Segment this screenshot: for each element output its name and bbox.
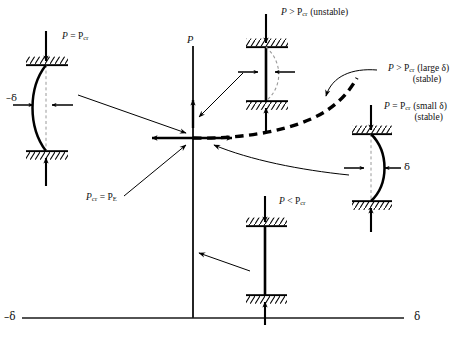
- right-column-deflection-label: δ: [404, 161, 410, 173]
- right-column-figure: [344, 105, 401, 232]
- small-delta-stable-label: P = Pcr (small δ) (stable): [384, 101, 447, 123]
- buckling-bifurcation-diagram: [0, 0, 454, 339]
- axis-group: [22, 46, 404, 318]
- leader-large-delta-to-curve: [326, 70, 377, 96]
- large-delta-line2: (stable): [388, 74, 449, 85]
- leader-left-column-to-origin: [78, 95, 186, 133]
- leader-euler-label-to-origin: [124, 145, 186, 196]
- bottom-column-top-support-hatch: [246, 218, 287, 226]
- left-column-top-support-hatch: [26, 57, 68, 65]
- small-delta-line1: P = Pcr (small δ): [384, 101, 447, 112]
- bottom-column-top-support-line: [246, 225, 287, 227]
- horizontal-axis-right-label: δ: [414, 310, 420, 323]
- bottom-column-load-label: P < Pcr: [279, 196, 306, 207]
- bottom-column-figure: [246, 196, 287, 325]
- bottom-column-bottom-support-line: [246, 294, 287, 296]
- left-column-buckled-shape: [33, 65, 47, 151]
- figure-page: P = Pcr –δ P P > Pcr (unstable) P < Pcr …: [0, 0, 454, 339]
- bottom-column-bottom-support-hatch: [246, 296, 287, 304]
- left-column-deflection-label: –δ: [6, 92, 17, 104]
- bifurcation-point-group: [152, 100, 232, 138]
- horizontal-axis-left-label: –δ: [4, 310, 16, 323]
- large-delta-stable-label: P > Pcr (large δ) (stable): [388, 63, 449, 85]
- leader-line-group: [78, 70, 377, 271]
- top-column-load-label: P > Pcr (unstable): [281, 7, 348, 18]
- top-column-buckled-dashed-shape: [266, 47, 279, 101]
- left-column-top-support-line: [26, 64, 68, 66]
- top-column-figure: [238, 14, 295, 132]
- leader-small-delta-to-curve: [214, 145, 349, 175]
- large-delta-line1: P > Pcr (large δ): [388, 63, 449, 74]
- top-column-top-support-hatch: [246, 39, 288, 47]
- right-column-top-support-hatch: [352, 126, 392, 134]
- left-column-figure: [13, 31, 73, 186]
- small-delta-line2: (stable): [384, 112, 447, 123]
- leader-bottom-column-to-axis: [199, 253, 250, 271]
- left-column-bottom-support-line: [26, 150, 68, 152]
- right-column-buckled-shape: [371, 134, 385, 201]
- left-column-load-label: P = Pcr: [62, 31, 89, 42]
- euler-load-label: Pcr = PE: [86, 192, 117, 203]
- leader-top-column-to-axis: [199, 73, 243, 117]
- vertical-axis-label: P: [187, 34, 193, 46]
